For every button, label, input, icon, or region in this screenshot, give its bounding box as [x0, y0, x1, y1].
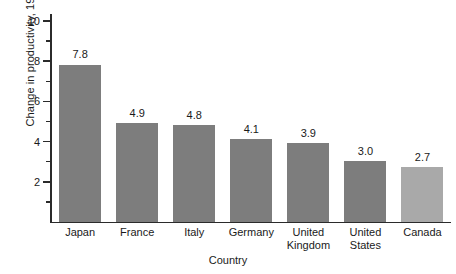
bar-value-label: 4.9 [130, 107, 145, 119]
category-label-line: Japan [65, 226, 95, 239]
bar-value-label: 3.0 [358, 145, 373, 157]
category-label: Italy [184, 226, 204, 239]
category-label: Canada [403, 226, 442, 239]
y-tick-label: 6 [14, 95, 40, 107]
y-tick-minor [46, 81, 51, 82]
y-tick-label: 10 [14, 15, 40, 27]
y-tick-major [43, 60, 51, 62]
bar-value-label: 3.9 [301, 127, 316, 139]
x-axis-line [50, 222, 451, 224]
y-tick-minor [46, 201, 51, 202]
y-tick-label: 8 [14, 55, 40, 67]
category-label-line: France [120, 226, 154, 239]
bar-value-label: 4.1 [244, 123, 259, 135]
y-tick-label: 2 [14, 176, 40, 188]
category-label: UnitedKingdom [287, 226, 330, 252]
y-tick-major [43, 20, 51, 22]
bar-value-label: 4.8 [187, 109, 202, 121]
bar [287, 143, 329, 221]
bar [173, 125, 215, 221]
category-label-line: States [350, 239, 382, 252]
category-label-line: Canada [403, 226, 442, 239]
category-label-line: United [350, 226, 382, 239]
y-tick-minor [46, 161, 51, 162]
y-tick-major [43, 101, 51, 103]
category-label-line: Kingdom [287, 239, 330, 252]
y-tick-major [43, 181, 51, 183]
bar [116, 123, 158, 221]
bar [59, 65, 101, 222]
category-label-line: United [287, 226, 330, 239]
category-label: Japan [65, 226, 95, 239]
y-tick-label: 4 [14, 136, 40, 148]
bar [401, 167, 443, 221]
bar [230, 139, 272, 221]
category-label: UnitedStates [350, 226, 382, 252]
bar-chart: Change in productivity, 1960–1990 (%) 24… [0, 0, 456, 274]
category-label: Germany [229, 226, 274, 239]
category-label: France [120, 226, 154, 239]
category-label-line: Italy [184, 226, 204, 239]
bar [344, 161, 386, 221]
y-tick-minor [46, 121, 51, 122]
y-tick-major [43, 141, 51, 143]
bar-value-label: 2.7 [415, 151, 430, 163]
bar-value-label: 7.8 [72, 48, 87, 60]
y-axis-line [50, 14, 52, 223]
x-axis-title: Country [0, 254, 456, 266]
y-tick-minor [46, 40, 51, 41]
category-label-line: Germany [229, 226, 274, 239]
